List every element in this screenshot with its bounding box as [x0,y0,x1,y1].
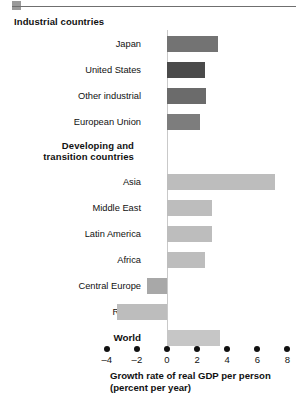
x-tick-label-minus4: –4 [93,354,121,365]
bar-middle-east [167,200,212,216]
bar-european-union [167,114,200,130]
bar-row-japan: Japan [0,34,302,54]
bar-africa [167,252,205,268]
bar-label-japan: Japan [0,34,152,54]
bar-row-russia: Russia [0,302,302,322]
tick-dot-icon [254,346,260,352]
group-heading-industrial: Industrial countries [14,16,104,27]
tick-dot-icon [164,346,170,352]
x-axis-title: Growth rate of real GDP per person (perc… [110,370,302,393]
x-tick-label-4: 4 [213,354,241,365]
bar-row-other-industrial: Other industrial [0,86,302,106]
group-heading-developing-line2: transition countries [0,151,148,162]
bar-label-european-union: European Union [0,112,152,132]
top-divider-rule [12,6,296,7]
bar-japan [167,36,218,52]
bar-row-united-states: United States [0,60,302,80]
bar-united-states [167,62,205,78]
bar-label-united-states: United States [0,60,152,80]
x-axis-title-line1: Growth rate of real GDP per person [110,370,302,382]
tick-dot-icon [284,346,290,352]
bar-label-other-industrial: Other industrial [0,86,152,106]
x-tick-label-minus2: –2 [123,354,151,365]
bar-other-industrial [167,88,206,104]
tick-dot-icon [104,346,110,352]
tick-dot-icon [224,346,230,352]
x-tick-label-6: 6 [243,354,271,365]
bar-label-middle-east: Middle East [0,198,152,218]
bar-row-world: World [0,328,302,348]
bar-russia [117,304,167,320]
x-axis-title-line2: (percent per year) [110,382,302,394]
bar-latin-america [167,226,212,242]
bar-row-asia: Asia [0,172,302,192]
tick-dot-icon [194,346,200,352]
group-heading-developing-line1: Developing and [0,140,148,151]
gdp-growth-chart-figure: Industrial countries Japan United States… [0,0,302,400]
bar-asia [167,174,275,190]
bar-label-world: World [0,328,152,348]
x-tick-label-2: 2 [183,354,211,365]
x-axis: –4 –2 0 2 4 6 8 Growth rate of real GDP … [0,346,302,400]
chart-plot-area: Industrial countries Japan United States… [0,16,302,346]
bar-row-middle-east: Middle East [0,198,302,218]
tick-dot-icon [134,346,140,352]
bar-row-european-union: European Union [0,112,302,132]
bar-label-latin-america: Latin America [0,224,152,244]
bar-label-asia: Asia [0,172,152,192]
bar-label-africa: Africa [0,250,152,270]
x-tick-label-zero: 0 [153,354,181,365]
bar-label-central-europe: Central Europe [0,276,152,296]
bar-central-europe [147,278,167,294]
bar-row-latin-america: Latin America [0,224,302,244]
bar-world [167,330,220,346]
bar-row-central-europe: Central Europe [0,276,302,296]
x-tick-label-8: 8 [273,354,301,365]
bar-row-africa: Africa [0,250,302,270]
